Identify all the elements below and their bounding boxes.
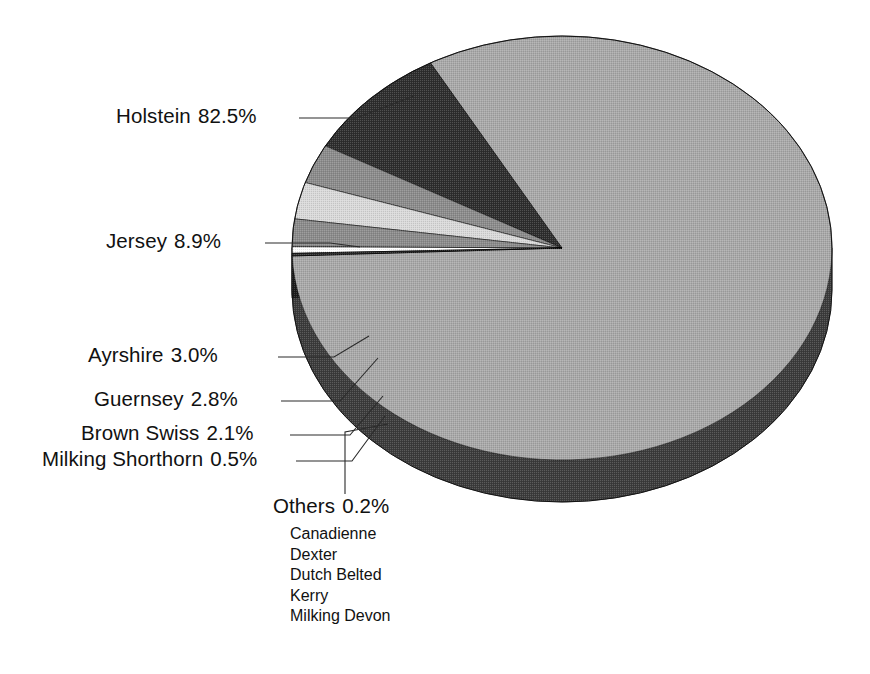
slice-label-guernsey-name: Guernsey <box>94 387 184 410</box>
slice-label-ayrshire-name: Ayrshire <box>88 343 164 366</box>
slice-label-others: Others0.2% <box>273 494 389 518</box>
slice-label-holstein-value: 82.5% <box>198 104 257 127</box>
slice-label-jersey: Jersey8.9% <box>106 229 221 253</box>
slice-label-others-value: 0.2% <box>342 494 389 517</box>
slice-label-holstein: Holstein82.5% <box>116 104 257 128</box>
dither-overlay-top <box>292 36 832 460</box>
pie-chart-graphic <box>0 0 870 674</box>
slice-label-others-name: Others <box>273 494 335 517</box>
others-breakdown-item: Dexter <box>290 545 390 566</box>
pie-chart-figure: Holstein82.5% Jersey8.9% Ayrshire3.0% Gu… <box>0 0 870 674</box>
slice-label-jersey-name: Jersey <box>106 229 167 252</box>
others-breakdown-item: Kerry <box>290 586 390 607</box>
slice-label-holstein-name: Holstein <box>116 104 191 127</box>
slice-label-brown-swiss: Brown Swiss2.1% <box>81 421 254 445</box>
slice-label-ayrshire-value: 3.0% <box>171 343 218 366</box>
slice-label-guernsey-value: 2.8% <box>191 387 238 410</box>
others-breakdown-item: Milking Devon <box>290 606 390 627</box>
slice-label-milking-shorthorn: Milking Shorthorn0.5% <box>42 447 257 471</box>
slice-label-brown-swiss-name: Brown Swiss <box>81 421 199 444</box>
slice-label-milking-shorthorn-name: Milking Shorthorn <box>42 447 203 470</box>
others-breakdown-item: Dutch Belted <box>290 565 390 586</box>
slice-label-jersey-value: 8.9% <box>174 229 221 252</box>
slice-label-guernsey: Guernsey2.8% <box>94 387 238 411</box>
others-breakdown-list: CanadienneDexterDutch BeltedKerryMilking… <box>290 524 390 627</box>
slice-label-ayrshire: Ayrshire3.0% <box>88 343 218 367</box>
others-breakdown-item: Canadienne <box>290 524 390 545</box>
slice-label-milking-shorthorn-value: 0.5% <box>210 447 257 470</box>
slice-label-brown-swiss-value: 2.1% <box>206 421 253 444</box>
